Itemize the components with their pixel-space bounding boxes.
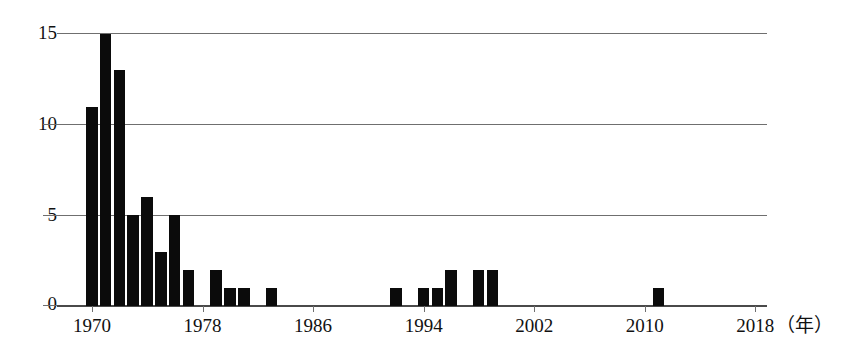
bar (100, 34, 112, 306)
bar (473, 270, 485, 306)
bar (141, 197, 153, 306)
bar (127, 215, 139, 306)
xtick-label: 2018 (736, 316, 774, 335)
bar (432, 288, 444, 306)
bar (183, 270, 195, 306)
xtick-mark (313, 306, 314, 312)
bar (653, 288, 665, 306)
xtick-mark (645, 306, 646, 312)
bar (390, 288, 402, 306)
bar (266, 288, 278, 306)
bar (155, 252, 167, 306)
bar (210, 270, 222, 306)
xtick-mark (92, 306, 93, 312)
bar (224, 288, 236, 306)
xtick-label: 1970 (73, 316, 111, 335)
xtick-mark (203, 306, 204, 312)
bar (86, 107, 98, 306)
xtick-label: 2002 (515, 316, 553, 335)
bar (418, 288, 430, 306)
xtick-label: 1994 (405, 316, 443, 335)
xtick-label: 1978 (184, 316, 222, 335)
plot-area: 15 10 5 0 1970197819861994200220102018 （… (0, 0, 865, 361)
xtick-label: 2010 (626, 316, 664, 335)
bar (169, 215, 181, 306)
xtick-mark (534, 306, 535, 312)
bar (238, 288, 250, 306)
bars-layer (0, 0, 865, 306)
xtick-mark (424, 306, 425, 312)
bar (114, 70, 126, 306)
xtick-mark (755, 306, 756, 312)
xtick-label: 1986 (294, 316, 332, 335)
axis-unit-label: （年） (776, 316, 833, 335)
bar-chart: 15 10 5 0 1970197819861994200220102018 （… (0, 0, 865, 361)
bar (445, 270, 457, 306)
bar (487, 270, 499, 306)
